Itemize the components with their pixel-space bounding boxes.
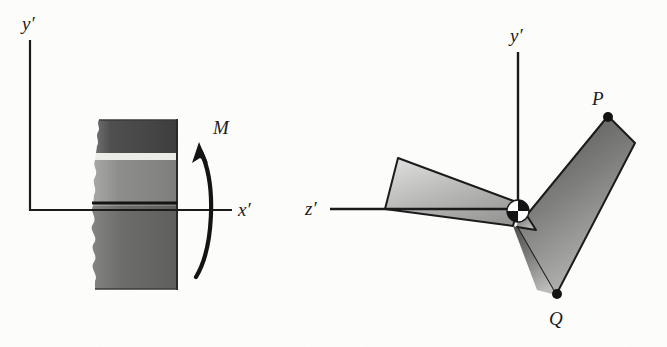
z-prime-label: z′ [304,198,317,219]
x-prime-label-left: x′ [237,199,251,220]
section-top-band [96,120,177,153]
figure-root: y′ x′ M [0,0,667,347]
point-p-dot [603,112,613,122]
point-q-label: Q [549,308,563,329]
centroid-marker [507,200,529,222]
section-highlight-band [95,153,177,160]
moment-label: M [212,117,230,138]
point-q-dot [552,289,562,299]
section-lower-band [92,206,177,289]
section-mid-band [93,160,177,206]
figure-canvas: y′ x′ M [0,0,667,347]
point-p-label: P [591,88,604,109]
y-prime-label-right: y′ [508,25,523,46]
y-prime-label-left: y′ [20,13,35,34]
